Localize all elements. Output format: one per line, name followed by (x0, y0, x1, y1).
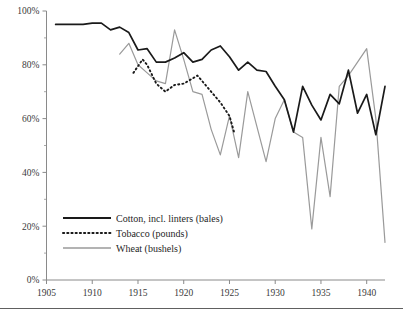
y-tick-label: 0% (27, 275, 40, 285)
x-tick-label: 1910 (83, 288, 102, 298)
line-chart: 0%20%40%60%80%100% 190519101915192019251… (0, 0, 403, 314)
x-tick-label: 1940 (357, 288, 376, 298)
page-divider-rule (0, 308, 403, 309)
chart-container: 0%20%40%60%80%100% 190519101915192019251… (0, 0, 403, 314)
x-tick-label: 1930 (266, 288, 285, 298)
legend-label-wheat: Wheat (bushels) (116, 243, 181, 255)
x-tick-label: 1925 (220, 288, 239, 298)
x-axis-ticks (47, 280, 367, 284)
y-tick-label: 40% (22, 168, 40, 178)
x-tick-label: 1935 (311, 288, 330, 298)
x-tick-label: 1920 (174, 288, 193, 298)
y-tick-label: 80% (22, 60, 40, 70)
y-tick-label: 100% (17, 6, 39, 16)
x-axis-labels: 19051910191519201925193019351940 (37, 288, 376, 298)
y-axis-ticks (43, 11, 47, 280)
data-series-group (56, 23, 385, 242)
legend-label-tobacco: Tobacco (pounds) (116, 228, 188, 240)
y-tick-label: 20% (22, 222, 40, 232)
y-tick-label: 60% (22, 114, 40, 124)
x-tick-label: 1905 (37, 288, 56, 298)
chart-legend: Cotton, incl. linters (bales)Tobacco (po… (63, 213, 223, 255)
y-axis-labels: 0%20%40%60%80%100% (17, 6, 39, 285)
legend-label-cotton: Cotton, incl. linters (bales) (116, 213, 223, 225)
x-tick-label: 1915 (128, 288, 147, 298)
series-line-cotton (56, 23, 385, 135)
series-line-tobacco (133, 59, 234, 132)
